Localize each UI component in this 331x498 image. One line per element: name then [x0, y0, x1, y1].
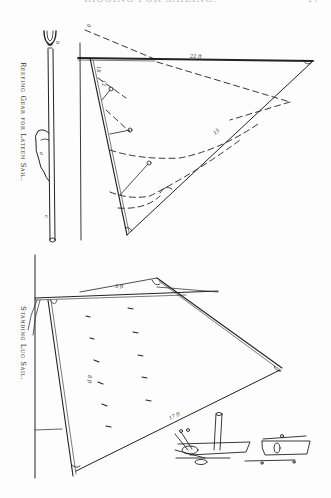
- reef-points: [102, 87, 151, 195]
- lug-leech: [157, 278, 282, 368]
- svg-text:15: 15: [212, 127, 221, 136]
- svg-text:8 ft: 8 ft: [86, 375, 93, 385]
- reefing-hook-pole: b a c: [35, 31, 61, 242]
- figure-standing-lug: 17 ft 8 ft 3 ft: [28, 255, 310, 478]
- lug-foot: [76, 370, 280, 471]
- svg-text:3 ft: 3 ft: [115, 283, 125, 290]
- book-page: RIGGING FOR SAILING. 47 Reefing Gear for…: [0, 0, 331, 498]
- svg-text:c: c: [44, 215, 50, 218]
- svg-text:18: 18: [96, 66, 102, 72]
- svg-text:a: a: [39, 152, 45, 155]
- svg-text:12: 12: [101, 80, 107, 86]
- tack-fitting-detail: [175, 413, 250, 465]
- lug-reef-points: [86, 308, 151, 427]
- lug-luff: [48, 300, 73, 476]
- lateen-leech: [127, 61, 313, 235]
- mast-line: [80, 43, 81, 240]
- figure-reefing-gear: b a c: [35, 24, 313, 242]
- svg-text:b: b: [55, 41, 61, 44]
- illustrations: b a c: [0, 0, 331, 498]
- svg-text:g: g: [86, 24, 93, 27]
- svg-text:22 ft: 22 ft: [189, 53, 203, 60]
- cleat-detail: [245, 435, 310, 465]
